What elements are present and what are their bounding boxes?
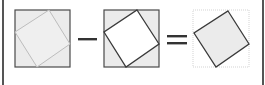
equals-operator [167,35,187,44]
minus-operator [78,38,97,40]
equals-top-bar [167,35,187,37]
minus-bar [78,38,97,40]
panel-3-tilted-square-result [193,10,249,67]
equals-bottom-bar [167,42,187,44]
equation-diagram [0,0,265,85]
diagram-frame [0,0,265,85]
panel-3-tilted-square [194,11,249,67]
panel-2-square-with-inscribed-square [104,10,159,67]
panel-1-square-with-faint-inscribed-square [15,10,70,67]
